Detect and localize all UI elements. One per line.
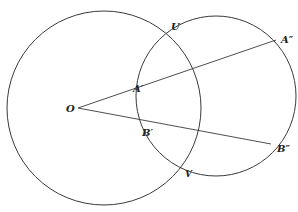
label-a-double-prime: A″ xyxy=(280,34,294,45)
large-circle xyxy=(7,11,201,205)
geometry-diagram: O A′ A″ B′ B″ U V xyxy=(0,0,298,212)
label-b-prime: B′ xyxy=(141,127,153,138)
ray-o-to-b-double-prime xyxy=(78,108,271,144)
label-v: V xyxy=(185,169,193,179)
label-u: U xyxy=(171,21,181,32)
label-o: O xyxy=(66,103,75,114)
label-a-prime: A′ xyxy=(132,83,144,94)
small-circle xyxy=(136,16,296,176)
label-b-double-prime: B″ xyxy=(276,143,290,154)
ray-o-to-a-double-prime xyxy=(78,40,276,108)
